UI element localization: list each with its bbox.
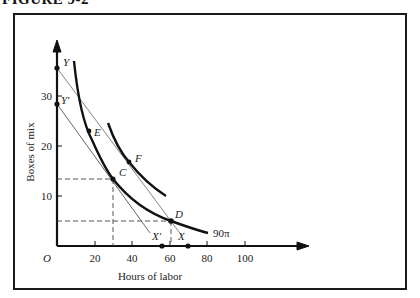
line-YX <box>57 68 182 236</box>
curves <box>74 61 208 233</box>
svg-text:Y: Y <box>63 56 71 68</box>
svg-text:D: D <box>174 208 183 220</box>
svg-text:80: 80 <box>202 252 214 264</box>
x-axis-title: Hours of labor <box>118 270 182 282</box>
chart-canvas: 20 40 60 80 100 10 20 30 O Hours of labo… <box>0 0 420 298</box>
svg-text:X': X' <box>151 230 162 242</box>
svg-text:X: X <box>177 230 186 242</box>
point-E <box>87 129 92 134</box>
point-D <box>168 218 174 224</box>
origin-label: O <box>43 252 51 264</box>
point-Xp <box>159 243 164 248</box>
budget-lines <box>57 68 182 236</box>
x-axis-arrow-icon <box>297 242 309 250</box>
svg-text:20: 20 <box>90 252 102 264</box>
point-Y <box>54 65 59 70</box>
point-C <box>110 176 115 181</box>
inner-curve <box>74 61 208 233</box>
svg-text:F: F <box>134 152 142 164</box>
line-YpXp <box>57 104 150 233</box>
curve-label-90pi: 90π <box>213 227 230 239</box>
svg-text:20: 20 <box>41 140 53 152</box>
svg-text:30: 30 <box>41 90 53 102</box>
svg-text:Y': Y' <box>61 94 70 106</box>
point-labels: Y Y' E F C D X' X 90π <box>61 56 230 242</box>
x-tick-labels: 20 40 60 80 100 <box>90 252 254 264</box>
y-axis-title: Boxes of mix <box>24 122 36 182</box>
svg-text:60: 60 <box>165 252 177 264</box>
svg-text:C: C <box>119 166 127 178</box>
point-F <box>127 160 132 165</box>
svg-text:100: 100 <box>237 252 254 264</box>
y-tick-labels: 10 20 30 <box>41 90 53 202</box>
svg-text:10: 10 <box>41 190 53 202</box>
point-Yp <box>54 101 59 106</box>
point-X <box>185 243 190 248</box>
svg-text:E: E <box>93 126 101 138</box>
y-axis-arrow-icon <box>53 40 61 52</box>
svg-text:40: 40 <box>127 252 139 264</box>
